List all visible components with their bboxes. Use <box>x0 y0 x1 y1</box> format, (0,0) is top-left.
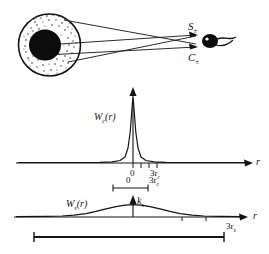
detector-blob <box>202 34 236 48</box>
label-ws: Ws(r) <box>66 199 87 211</box>
figure-canvas <box>0 0 269 254</box>
middle-y-axis-arrow <box>130 87 137 96</box>
core-weighting-plot <box>16 87 253 168</box>
bottom-y-axis-arrow <box>130 195 137 204</box>
source-geometry-diagram <box>19 14 237 76</box>
label-ks: ks <box>137 196 144 208</box>
scalebar-rc <box>113 185 148 192</box>
middle-axis-label-r: r <box>256 157 260 167</box>
shell-weighting-plot <box>14 185 248 243</box>
label-s: S± <box>188 21 197 35</box>
bottom-axis-label-r: r <box>253 211 257 221</box>
ws-curve <box>16 205 242 217</box>
label-c: C± <box>188 52 199 66</box>
ray-lines <box>46 20 196 62</box>
scalebar-rc-zero-label: 0 <box>126 176 131 185</box>
source-core <box>29 30 61 61</box>
scalebar-rs-end-label: 3rs <box>226 222 236 233</box>
scalebar-rc-end-label: 3rc <box>149 176 159 187</box>
bottom-tick-marks <box>182 217 206 221</box>
label-wc: Wc(r) <box>94 112 116 124</box>
